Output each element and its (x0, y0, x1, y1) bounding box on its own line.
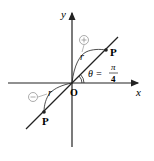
point-p-lower-label: P (42, 115, 49, 127)
radius-label-lower: r (48, 87, 52, 98)
plus-sign-icon (80, 36, 89, 45)
minus-sign-icon (29, 93, 38, 102)
point-p-lower (42, 110, 46, 114)
y-axis-label: y (60, 8, 66, 20)
angle-arc-inner (79, 76, 82, 83)
point-p-upper-label: P (110, 46, 117, 58)
theta-label: θ = (88, 68, 102, 79)
theta-numerator: π (111, 62, 116, 72)
polar-diagram: y x O P P r r θ = π 4 (0, 0, 154, 161)
radius-label-upper: r (80, 51, 84, 62)
x-axis-label: x (135, 86, 141, 98)
origin-label: O (70, 87, 78, 98)
minus-leader (38, 94, 47, 97)
theta-denominator: 4 (111, 74, 116, 84)
point-p-upper (104, 48, 108, 52)
